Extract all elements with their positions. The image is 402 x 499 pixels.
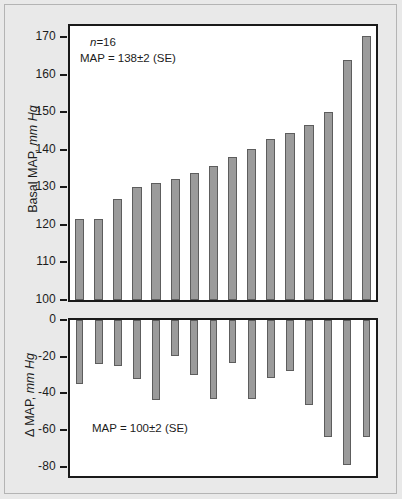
bar	[133, 320, 141, 379]
y-axis-tick	[60, 186, 67, 188]
bar	[113, 199, 122, 300]
annotation-sample-size: n=16	[90, 36, 116, 48]
bar	[247, 149, 256, 300]
y-axis-tick-label: 0	[2, 312, 56, 326]
bar	[190, 320, 198, 375]
bar	[305, 320, 313, 405]
bar	[324, 112, 333, 300]
y-axis-tick	[60, 74, 67, 76]
bar	[152, 320, 160, 400]
y-axis-tick	[60, 356, 67, 358]
figure-panel: n=16 MAP = 138±2 (SE) Basal MAP, mm Hg M…	[0, 0, 402, 499]
y-axis-tick	[60, 111, 67, 113]
bar	[286, 320, 294, 371]
bar	[228, 157, 237, 300]
top-plot-area	[70, 26, 376, 300]
bar	[362, 36, 371, 300]
bar	[343, 320, 351, 465]
y-axis-tick-label: 100	[2, 292, 56, 306]
y-axis-tick-label: 160	[2, 67, 56, 81]
annotation-bottom-map-mean: MAP = 100±2 (SE)	[92, 422, 188, 434]
bar	[132, 187, 141, 300]
bar	[363, 320, 371, 437]
bar	[304, 125, 313, 300]
bar	[210, 320, 218, 399]
bar	[76, 320, 84, 384]
y-axis-tick	[60, 299, 67, 301]
y-axis-tick	[60, 224, 67, 226]
y-axis-tick-label: -80	[2, 459, 56, 473]
bar	[248, 320, 256, 399]
bar	[171, 179, 180, 300]
y-axis-tick-label: -60	[2, 422, 56, 436]
y-axis-tick-label: 130	[2, 179, 56, 193]
y-axis-tick-label: -20	[2, 349, 56, 363]
y-axis-tick-label: -40	[2, 385, 56, 399]
bar	[324, 320, 332, 437]
bar	[75, 219, 84, 300]
y-axis-tick	[60, 429, 67, 431]
bar	[209, 166, 218, 300]
annotation-n-value: =16	[96, 36, 116, 48]
bottom-plot-area	[70, 320, 376, 476]
y-axis-tick	[60, 149, 67, 151]
bar	[114, 320, 122, 366]
y-axis-tick-label: 120	[2, 217, 56, 231]
chart-top-basal-map: n=16 MAP = 138±2 (SE)	[68, 24, 378, 302]
annotation-top-map-mean: MAP = 138±2 (SE)	[80, 52, 176, 64]
y-axis-tick-label: 170	[2, 29, 56, 43]
bar	[267, 320, 275, 378]
y-axis-tick-label: 140	[2, 142, 56, 156]
y-axis-tick	[60, 319, 67, 321]
y-axis-tick	[60, 261, 67, 263]
y-axis-tick	[60, 466, 67, 468]
bar	[151, 183, 160, 300]
bar	[266, 139, 275, 300]
bar	[94, 219, 103, 300]
bar	[285, 133, 294, 300]
bar	[171, 320, 179, 356]
chart-bottom-delta-map: MAP = 100±2 (SE)	[68, 318, 378, 478]
bar	[95, 320, 103, 364]
bar	[343, 60, 352, 300]
y-axis-tick-label: 150	[2, 104, 56, 118]
y-axis-tick	[60, 36, 67, 38]
bar	[190, 173, 199, 300]
y-axis-tick	[60, 392, 67, 394]
y-axis-tick-label: 110	[2, 254, 56, 268]
bar	[229, 320, 237, 363]
